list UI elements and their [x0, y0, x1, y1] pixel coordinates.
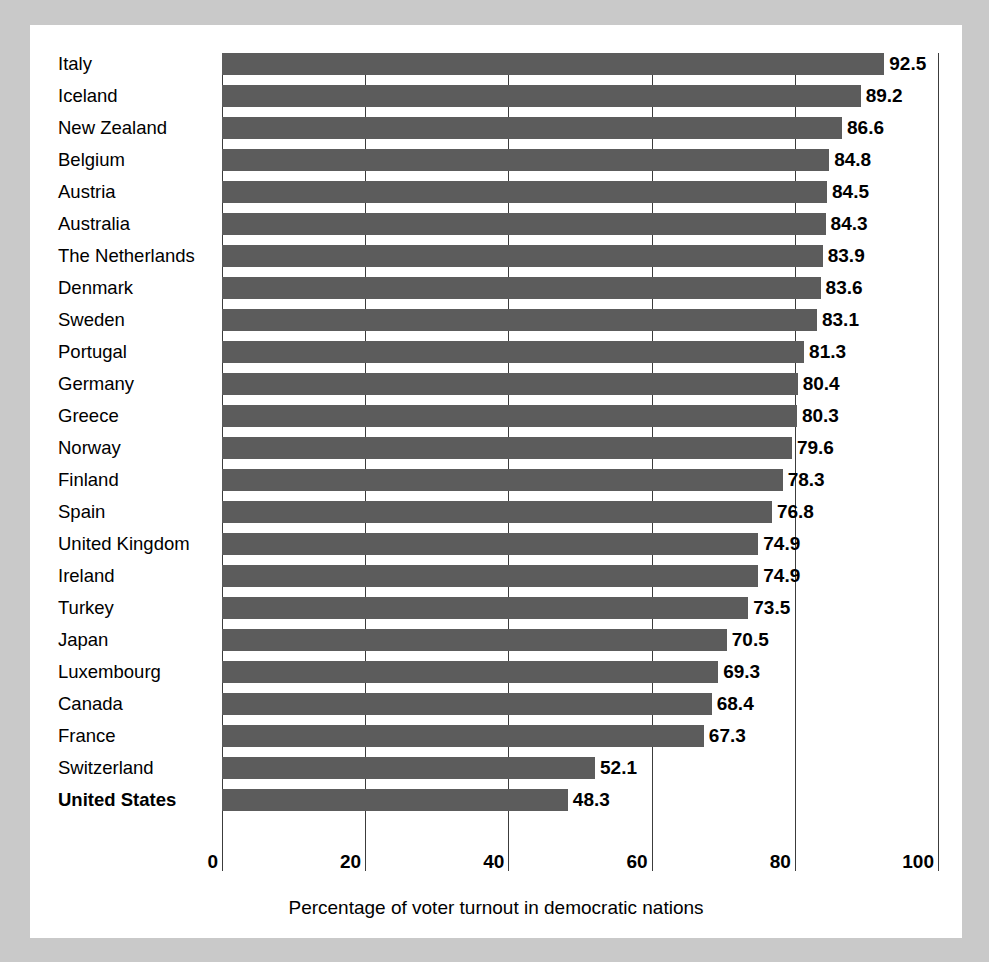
bar	[222, 693, 712, 715]
bar-row: Turkey73.5	[30, 597, 962, 629]
bar-value-label: 83.1	[817, 309, 859, 331]
bar-row: Norway79.6	[30, 437, 962, 469]
bar-row: Finland78.3	[30, 469, 962, 501]
bar-row: Italy92.5	[30, 53, 962, 85]
bar-value-label: 83.9	[823, 245, 865, 267]
chart-card: Italy92.5Iceland89.2New Zealand86.6Belgi…	[30, 25, 962, 938]
category-label: Norway	[30, 437, 208, 459]
bar-row: Luxembourg69.3	[30, 661, 962, 693]
bar-row: Iceland89.2	[30, 85, 962, 117]
bar-value-label: 86.6	[842, 117, 884, 139]
category-label: France	[30, 725, 208, 747]
category-label: New Zealand	[30, 117, 208, 139]
bar-value-label: 70.5	[727, 629, 769, 651]
bar-value-label: 83.6	[821, 277, 863, 299]
bar-value-label: 48.3	[568, 789, 610, 811]
bar-value-label: 52.1	[595, 757, 637, 779]
bar-value-label: 80.4	[798, 373, 840, 395]
tick-mark-60	[652, 845, 653, 871]
bar-row: New Zealand86.6	[30, 117, 962, 149]
bar-row: United States48.3	[30, 789, 962, 821]
category-label: Iceland	[30, 85, 208, 107]
tick-label-80: 80	[770, 851, 795, 873]
bar-value-label: 89.2	[861, 85, 903, 107]
bar-row: France67.3	[30, 725, 962, 757]
bar-row: Sweden83.1	[30, 309, 962, 341]
bar-row: Switzerland52.1	[30, 757, 962, 789]
category-label: Switzerland	[30, 757, 208, 779]
category-label: Sweden	[30, 309, 208, 331]
bar	[222, 117, 842, 139]
bar-value-label: 81.3	[804, 341, 846, 363]
bar	[222, 53, 884, 75]
bar	[222, 533, 758, 555]
bar-value-label: 73.5	[748, 597, 790, 619]
bar-row: Denmark83.6	[30, 277, 962, 309]
bar	[222, 373, 798, 395]
bar-value-label: 74.9	[758, 533, 800, 555]
plot-area: Italy92.5Iceland89.2New Zealand86.6Belgi…	[30, 25, 962, 845]
tick-mark-20	[365, 845, 366, 871]
bar	[222, 149, 829, 171]
bar-value-label: 67.3	[704, 725, 746, 747]
category-label: United Kingdom	[30, 533, 208, 555]
bar	[222, 789, 568, 811]
bar-value-label: 69.3	[718, 661, 760, 683]
bar-row: Germany80.4	[30, 373, 962, 405]
bar	[222, 405, 797, 427]
tick-label-0: 0	[207, 851, 222, 873]
bar-value-label: 84.5	[827, 181, 869, 203]
category-label: Finland	[30, 469, 208, 491]
category-label: Spain	[30, 501, 208, 523]
tick-mark-100	[938, 845, 939, 871]
bar-row: Portugal81.3	[30, 341, 962, 373]
category-label: Portugal	[30, 341, 208, 363]
bar	[222, 85, 861, 107]
category-label: Greece	[30, 405, 208, 427]
category-label: Australia	[30, 213, 208, 235]
x-axis: 020406080100 Percentage of voter turnout…	[30, 845, 962, 938]
bar	[222, 725, 704, 747]
tick-label-100: 100	[902, 851, 938, 873]
tick-label-40: 40	[483, 851, 508, 873]
bar-row: The Netherlands83.9	[30, 245, 962, 277]
bar-value-label: 92.5	[884, 53, 926, 75]
bar-row: Greece80.3	[30, 405, 962, 437]
bar-row: Canada68.4	[30, 693, 962, 725]
x-axis-caption: Percentage of voter turnout in democrati…	[30, 897, 962, 919]
tick-label-20: 20	[340, 851, 365, 873]
category-label: Luxembourg	[30, 661, 208, 683]
category-label: Germany	[30, 373, 208, 395]
bar-row: Austria84.5	[30, 181, 962, 213]
bar	[222, 629, 727, 651]
bar	[222, 661, 718, 683]
bar	[222, 757, 595, 779]
bar	[222, 469, 783, 491]
bar-value-label: 84.8	[829, 149, 871, 171]
bar	[222, 309, 817, 331]
bar	[222, 181, 827, 203]
tick-mark-80	[795, 845, 796, 871]
category-label: Ireland	[30, 565, 208, 587]
category-label: Austria	[30, 181, 208, 203]
category-label: Belgium	[30, 149, 208, 171]
bar-row: Japan70.5	[30, 629, 962, 661]
bar-value-label: 68.4	[712, 693, 754, 715]
bar-value-label: 80.3	[797, 405, 839, 427]
category-label: Canada	[30, 693, 208, 715]
bar-value-label: 78.3	[783, 469, 825, 491]
bar-row: Spain76.8	[30, 501, 962, 533]
tick-label-60: 60	[626, 851, 651, 873]
category-label: Turkey	[30, 597, 208, 619]
tick-mark-0	[222, 845, 223, 871]
category-label: The Netherlands	[30, 245, 208, 267]
category-label: Italy	[30, 53, 208, 75]
bar-row: Australia84.3	[30, 213, 962, 245]
tick-mark-40	[508, 845, 509, 871]
bar-row: Ireland74.9	[30, 565, 962, 597]
category-label: Japan	[30, 629, 208, 651]
bar	[222, 565, 758, 587]
bar	[222, 597, 748, 619]
bar-value-label: 74.9	[758, 565, 800, 587]
bar-row: Belgium84.8	[30, 149, 962, 181]
